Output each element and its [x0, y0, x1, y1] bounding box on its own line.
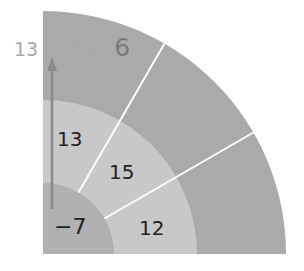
equation-result: 6	[114, 33, 130, 62]
section-label-15: 15	[109, 162, 134, 182]
section-label-12: 12	[139, 218, 164, 238]
equation: 13 − 7 =6	[14, 35, 130, 60]
equation-lhs: 13 − 7 =	[14, 38, 100, 60]
inner-label: −7	[54, 216, 86, 238]
section-label-13: 13	[57, 129, 82, 149]
